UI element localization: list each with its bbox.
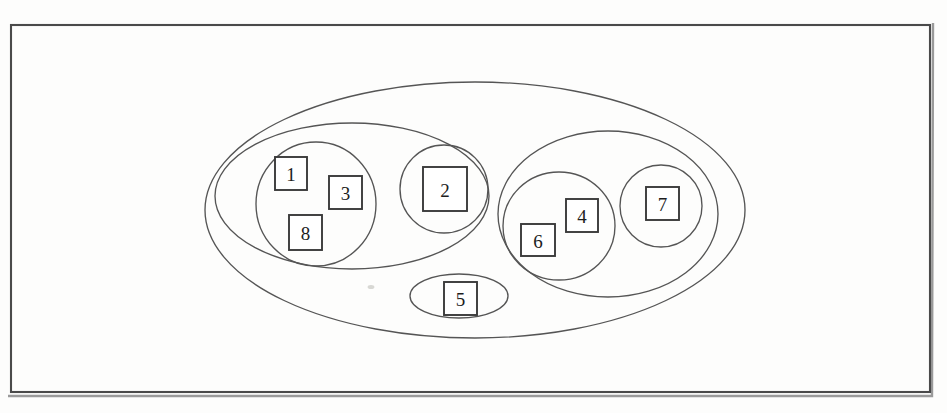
node-label-6: 6 [533, 231, 543, 252]
node-label-1: 1 [286, 164, 296, 185]
node-3: 3 [329, 176, 362, 209]
nested-set-diagram: 13826475 [0, 0, 947, 413]
page-background [0, 0, 947, 413]
diagram-canvas: 13826475 [0, 0, 947, 413]
node-label-4: 4 [577, 206, 587, 227]
node-5: 5 [444, 282, 477, 315]
node-label-7: 7 [658, 194, 668, 215]
node-label-3: 3 [341, 183, 351, 204]
node-8: 8 [289, 215, 322, 250]
node-2: 2 [423, 167, 467, 211]
node-label-8: 8 [301, 223, 311, 244]
node-label-5: 5 [456, 289, 466, 310]
node-7: 7 [646, 187, 679, 220]
node-4: 4 [566, 199, 598, 232]
node-6: 6 [521, 224, 555, 256]
node-label-2: 2 [440, 180, 450, 201]
scan-speck [368, 285, 375, 289]
node-1: 1 [275, 157, 307, 190]
